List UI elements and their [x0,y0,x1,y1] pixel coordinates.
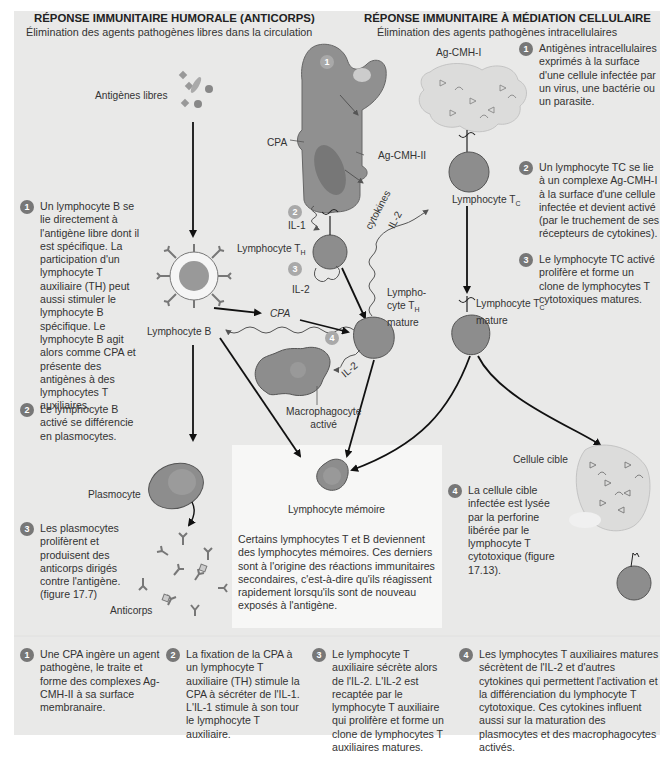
label-anticorps: Anticorps [110,605,152,617]
bottom-step-3: 3 Le lymphocyte T auxiliaire sécrète alo… [312,648,444,754]
bottom-step-2: 2 La fixation de la CPA à un lymphocyte … [166,648,306,741]
label-lymphocyte-tc: Lymphocyte TC [452,194,520,210]
label-plasmocyte: Plasmocyte [88,489,141,501]
humoral-step-3: 3 Les plasmocytes prolifèrent et produis… [20,522,130,602]
label-il2-th: IL-2 [292,284,310,296]
label-lymphocyte-th-mature: Lympho- cyte TH mature [387,286,426,329]
label-macrophage: Macrophagocyte activé [286,405,361,431]
free-antigens-icon [179,71,213,108]
bottom-step-4: 4 Les lymphocytes T auxiliaires matures … [459,648,659,754]
marker-2: 2 [288,205,302,219]
cpa-cell-icon [298,44,387,213]
cellular-step-1: 1 Antigènes intracellulaires exprimés à … [519,42,659,108]
b-cell-icon [157,244,231,308]
humoral-subtitle: Élimination des agents pathogènes libres… [26,26,312,38]
antibodies-icon [139,533,227,616]
label-memory-lymphocyte: Lymphocyte mémoire [288,504,385,516]
cellular-step-3: 3 Le lymphocyte TC activé prolifère et f… [519,253,659,306]
bottom-step-1: 1 Une CPA ingère un agent pathogène, le … [20,648,160,714]
label-free-antigens: Antigènes libres [95,90,168,102]
label-lymphocyte-th: Lymphocyte TH [237,243,305,259]
label-ag-cmh-ii: Ag-CMH-II [378,150,426,162]
label-il1: IL-1 [288,220,306,232]
label-ag-cmh-i: Ag-CMH-I [436,47,481,59]
memory-description: Certains lymphocytes T et B deviennent d… [238,533,443,613]
marker-1: 1 [320,55,334,69]
humoral-step-1: 1 Un lymphocyte B se lie directement à l… [20,200,142,413]
label-lymphocyte-b: Lymphocyte B [147,326,211,338]
humoral-step-2: 2 Le lymphocyte B activé se différencie … [20,403,142,443]
label-cpa: CPA [267,137,287,149]
marker-4: 4 [325,331,339,345]
cellular-subtitle: Élimination des agents pathogènes intrac… [377,26,617,38]
marker-3: 3 [288,262,302,276]
cellular-step-4: 4 La cellule cible infectée est lysée pa… [448,484,558,577]
humoral-title: RÉPONSE IMMUNITAIRE HUMORALE (ANTICORPS) [34,12,315,24]
cellular-step-2: 2 Un lymphocyte TC se lie à un complexe … [519,161,661,241]
cellular-title: RÉPONSE IMMUNITAIRE À MÉDIATION CELLULAI… [364,12,651,24]
label-target-cell: Cellule cible [513,454,568,466]
label-cpa-arrow: CPA [270,308,290,320]
